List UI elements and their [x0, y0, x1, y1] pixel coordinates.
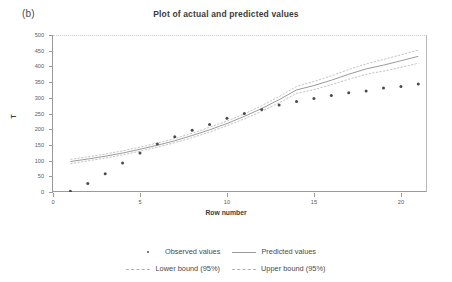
legend-item[interactable]: Lower bound (95%) — [126, 265, 220, 272]
observed-value-point — [225, 117, 228, 120]
observed-value-point — [382, 87, 385, 90]
observed-value-point — [121, 162, 124, 165]
x-axis-tick-labels: 05101520 — [0, 193, 452, 209]
upper-bound-line — [70, 50, 418, 159]
observed-value-point — [208, 123, 211, 126]
legend-label: Upper bound (95%) — [261, 265, 326, 272]
x-tick-mark — [314, 193, 315, 197]
observed-value-point — [312, 97, 315, 100]
y-tick-label: 200 — [35, 126, 44, 132]
observed-value-point — [278, 104, 281, 107]
observed-value-point — [365, 89, 368, 92]
y-tick-label: 400 — [35, 63, 44, 69]
x-tick-label: 20 — [398, 199, 404, 205]
observed-value-point — [173, 135, 176, 138]
observed-value-point — [330, 94, 333, 97]
observed-value-point — [191, 129, 194, 132]
y-tick-label: 350 — [35, 79, 44, 85]
dot-icon — [147, 251, 149, 253]
x-tick-label: 0 — [51, 199, 54, 205]
y-tick-label: 150 — [35, 142, 44, 148]
observed-value-point — [417, 82, 420, 85]
legend-row: Observed valuesPredicted values — [0, 243, 452, 260]
dashed-line-icon — [232, 269, 256, 270]
x-tick-mark — [401, 193, 402, 197]
legend-row: Lower bound (95%)Upper bound (95%) — [0, 260, 452, 277]
y-tick-label: 300 — [35, 95, 44, 101]
legend-item[interactable]: Predicted values — [232, 248, 316, 255]
y-tick-label: 50 — [38, 173, 44, 179]
y-axis-tick-labels: 050100150200250300350400450500 — [0, 0, 53, 282]
observed-value-point — [86, 182, 89, 185]
line-icon — [232, 252, 256, 253]
observed-value-point — [69, 190, 72, 192]
plot-canvas — [53, 35, 427, 192]
x-tick-label: 15 — [311, 199, 317, 205]
legend-dashed-line-icon — [232, 265, 256, 272]
x-tick-mark — [53, 193, 54, 197]
legend-label: Observed values — [165, 248, 220, 255]
observed-value-point — [156, 142, 159, 145]
chart-legend: Observed valuesPredicted valuesLower bou… — [0, 243, 452, 277]
observed-value-point — [243, 112, 246, 115]
x-tick-mark — [140, 193, 141, 197]
legend-dot-icon — [136, 248, 160, 255]
chart-title: Plot of actual and predicted values — [0, 9, 452, 19]
observed-value-point — [260, 108, 263, 111]
x-tick-label: 5 — [138, 199, 141, 205]
y-tick-label: 450 — [35, 48, 44, 54]
legend-label: Predicted values — [261, 248, 316, 255]
legend-dashed-line-icon — [126, 265, 150, 272]
legend-item[interactable]: Observed values — [136, 248, 220, 255]
observed-value-point — [295, 100, 298, 103]
y-tick-label: 100 — [35, 158, 44, 164]
legend-label: Lower bound (95%) — [155, 265, 220, 272]
observed-value-point — [347, 91, 350, 94]
observed-value-point — [104, 172, 107, 175]
dashed-line-icon — [126, 269, 150, 270]
y-tick-label: 500 — [35, 32, 44, 38]
predicted-values-line — [70, 56, 418, 161]
x-tick-mark — [227, 193, 228, 197]
chart-figure: (b) Plot of actual and predicted values … — [0, 0, 452, 282]
plot-area — [53, 35, 427, 192]
x-tick-label: 10 — [224, 199, 230, 205]
x-axis-title: Row number — [0, 209, 452, 216]
legend-item[interactable]: Upper bound (95%) — [232, 265, 326, 272]
legend-solid-line-icon — [232, 248, 256, 255]
y-tick-label: 250 — [35, 111, 44, 117]
observed-value-point — [138, 152, 141, 155]
observed-value-point — [399, 85, 402, 88]
